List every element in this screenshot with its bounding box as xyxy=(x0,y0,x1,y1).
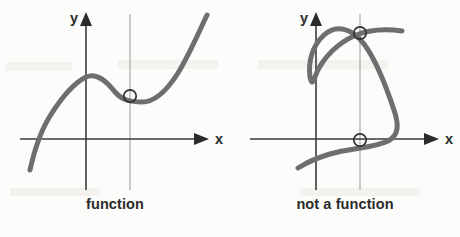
x-axis-arrowhead xyxy=(194,133,209,145)
diagram-not-a-function: y x xyxy=(230,0,460,200)
x-axis-arrowhead xyxy=(424,133,439,145)
figure-root: y x function y x not a function xyxy=(0,0,460,237)
x-axis-label: x xyxy=(445,131,453,147)
not-a-function-curve xyxy=(298,29,402,168)
caption-function: function xyxy=(0,196,230,212)
y-axis-label: y xyxy=(70,10,78,26)
x-axis-label: x xyxy=(215,131,223,147)
y-axis-arrowhead xyxy=(310,12,322,26)
y-axis-arrowhead xyxy=(80,12,92,26)
caption-not-a-function: not a function xyxy=(230,196,460,212)
panel-function: y x function xyxy=(0,0,230,237)
y-axis-label: y xyxy=(300,10,308,26)
function-curve xyxy=(30,15,207,170)
diagram-function: y x xyxy=(0,0,230,200)
panel-not-a-function: y x not a function xyxy=(230,0,460,237)
